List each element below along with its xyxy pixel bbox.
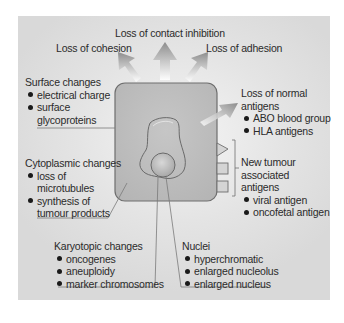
label-loss-contact-inhibition: Loss of contact inhibition <box>115 27 225 40</box>
arrow-adhesion-icon <box>185 52 208 82</box>
surface-changes-group: Surface changes electrical charge surfac… <box>25 76 110 126</box>
antigen-square-icon <box>217 181 228 192</box>
label-loss-cohesion: Loss of cohesion <box>56 42 132 55</box>
cell-body <box>115 83 217 201</box>
antigen-triangle-icon <box>217 143 228 156</box>
nuclei-group: Nuclei hyperchromatic enlarged nucleolus… <box>182 240 279 290</box>
label-loss-adhesion: Loss of adhesion <box>206 42 282 55</box>
arrow-contact-inhibition-icon <box>153 42 177 80</box>
karyotopic-changes-group: Karyotopic changes oncogenes aneuploidy … <box>54 240 164 290</box>
arrow-cohesion-icon <box>118 52 141 82</box>
cytoplasmic-changes-group: Cytoplasmic changes loss of microtubules… <box>25 157 121 220</box>
loss-normal-antigens-group: Loss of normal antigens ABO blood group … <box>241 87 331 137</box>
antigen-square-icon <box>217 163 228 174</box>
bracket <box>232 140 239 196</box>
nucleus <box>151 153 175 177</box>
new-tumour-antigens-group: New tumour associated antigens viral ant… <box>241 156 330 219</box>
